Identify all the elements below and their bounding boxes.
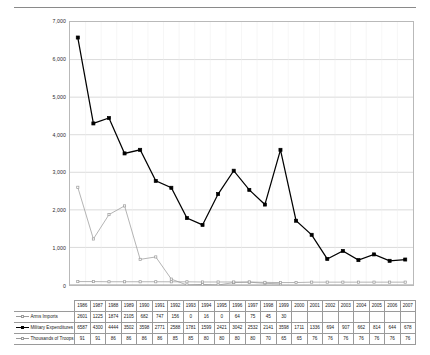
table-column-header-year: 1986	[75, 301, 91, 312]
data-point-marker	[170, 186, 173, 189]
table-cell-value: 76	[385, 334, 401, 345]
data-point-marker	[279, 281, 281, 283]
table-cell-value	[292, 312, 308, 323]
data-point-marker	[139, 148, 142, 151]
data-point-marker	[139, 281, 141, 283]
series-name-text: Thousands of Troops	[31, 336, 74, 341]
y-axis-tick-label: 3,000	[53, 169, 66, 175]
table-cell-value: 80	[214, 334, 230, 345]
data-point-marker	[154, 179, 157, 182]
table-cell-value: 814	[369, 323, 385, 334]
table-cell-value: 16	[199, 312, 215, 323]
data-point-marker	[404, 258, 407, 261]
table-cell-value: 1711	[292, 323, 308, 334]
table-column-header-year: 1988	[106, 301, 122, 312]
table-column-header-year: 1994	[199, 301, 215, 312]
data-table-container: 1986198719881989199019911992199319941995…	[14, 300, 416, 345]
table-cell-value: 2771	[152, 323, 168, 334]
data-point-marker	[326, 257, 329, 260]
y-axis-tick-label: 6,000	[53, 56, 66, 62]
table-cell-value: 1781	[183, 323, 199, 334]
table-cell-value: 65	[276, 334, 292, 345]
data-point-marker	[388, 259, 391, 262]
data-point-marker	[170, 281, 172, 283]
table-cell-value	[323, 312, 339, 323]
table-column-header-year: 2004	[354, 301, 370, 312]
data-point-marker	[357, 281, 359, 283]
table-cell-value: 64	[230, 312, 246, 323]
table-cell-value: 694	[323, 323, 339, 334]
table-cell-value: 4444	[106, 323, 122, 334]
table-column-header-year: 2003	[338, 301, 354, 312]
table-cell-value: 75	[245, 312, 261, 323]
table-cell-value: 76	[354, 334, 370, 345]
data-point-marker	[92, 238, 94, 240]
table-column-header-year: 2001	[307, 301, 323, 312]
table-column-header-year: 1991	[152, 301, 168, 312]
data-point-marker	[123, 205, 125, 207]
table-cell-value: 76	[307, 334, 323, 345]
table-column-header-year: 1996	[230, 301, 246, 312]
data-point-marker	[77, 280, 79, 282]
data-point-marker	[186, 281, 188, 283]
table-header-row: 1986198719881989199019911992199319941995…	[14, 301, 416, 312]
table-cell-value: 3598	[276, 323, 292, 334]
data-point-marker	[123, 281, 125, 283]
table-cell-value: 86	[106, 334, 122, 345]
table-cell-value	[338, 312, 354, 323]
data-point-marker	[217, 284, 219, 285]
table-cell-value: 76	[338, 334, 354, 345]
data-point-marker	[76, 36, 79, 39]
table-cell-value: 86	[121, 334, 137, 345]
table-cell-value: 3042	[230, 323, 246, 334]
table-cell-value: 3502	[121, 323, 137, 334]
data-point-marker	[92, 122, 95, 125]
table-cell-value: 907	[338, 323, 354, 334]
table-cell-value: 91	[75, 334, 91, 345]
data-point-marker	[232, 169, 235, 172]
chart-figure: 7,0006,0005,0004,0003,0002,0001,0000	[0, 16, 430, 308]
table-cell-value: 2601	[75, 312, 91, 323]
table-column-header-year: 1992	[168, 301, 184, 312]
table-cell-value: 1336	[307, 323, 323, 334]
table-cell-value: 3598	[137, 323, 153, 334]
data-point-marker	[372, 253, 375, 256]
table-cell-value: 65	[292, 334, 308, 345]
table-column-header-year: 2005	[369, 301, 385, 312]
table-row: Thousands of Troops919186868686858580808…	[14, 334, 416, 345]
table-cell-value	[400, 312, 416, 323]
data-point-marker	[123, 152, 126, 155]
table-cell-value: 2532	[245, 323, 261, 334]
table-cell-value: 85	[168, 334, 184, 345]
data-point-marker	[217, 281, 219, 283]
table-cell-value: 1599	[199, 323, 215, 334]
table-cell-value	[354, 312, 370, 323]
data-table: 1986198719881989199019911992199319941995…	[14, 300, 416, 345]
table-cell-value: 1225	[90, 312, 106, 323]
table-cell-value: 2105	[121, 312, 137, 323]
data-point-marker	[248, 281, 250, 283]
series-name-text: Arms Imports	[31, 314, 58, 319]
chart-page: 7,0006,0005,0004,0003,0002,0001,0000 198…	[0, 0, 430, 355]
data-point-marker	[108, 281, 110, 283]
table-row: Military Expenditures6587430044443502359…	[14, 323, 416, 334]
table-cell-value	[369, 312, 385, 323]
table-column-header-year: 2002	[323, 301, 339, 312]
data-point-marker	[341, 249, 344, 252]
y-axis-tick-label: 4,000	[53, 132, 66, 138]
table-cell-value: 644	[385, 323, 401, 334]
table-cell-value: 678	[400, 323, 416, 334]
data-point-marker	[107, 116, 110, 119]
table-cell-value: 86	[152, 334, 168, 345]
plot-svg	[70, 22, 413, 285]
series-legend-label: Military Expenditures	[14, 323, 75, 334]
data-point-marker	[264, 281, 266, 283]
table-cell-value: 76	[369, 334, 385, 345]
table-cell-value: 6587	[75, 323, 91, 334]
data-point-marker	[310, 233, 313, 236]
series-name-text: Military Expenditures	[31, 325, 74, 330]
data-point-marker	[404, 281, 406, 283]
table-cell-value	[385, 312, 401, 323]
data-point-marker	[295, 281, 297, 283]
table-cell-value: 91	[90, 334, 106, 345]
